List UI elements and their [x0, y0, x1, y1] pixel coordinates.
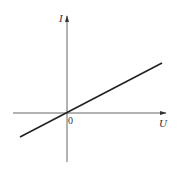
iu-line: [20, 63, 162, 137]
y-axis-label: I: [59, 13, 63, 24]
origin-label: 0: [68, 116, 73, 126]
iu-graph: [0, 0, 181, 170]
x-axis-label: U: [159, 118, 167, 129]
